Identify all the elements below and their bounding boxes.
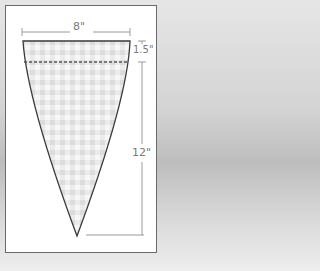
width-label: 8" [73, 21, 85, 32]
pennant-diagram [0, 0, 168, 271]
hem-label: 1.5" [133, 45, 154, 55]
pennant-shape [23, 41, 130, 236]
height-label: 12" [132, 147, 151, 158]
